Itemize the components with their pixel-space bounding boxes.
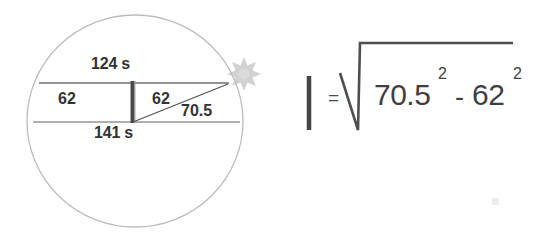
equation-svg bbox=[280, 0, 553, 245]
operand-a: 70.5 bbox=[374, 80, 430, 110]
diagram-page: 124 s 62 62 70.5 141 s = 70.5 2 - 62 2 bbox=[0, 0, 553, 245]
geometry-figure-svg bbox=[0, 0, 280, 245]
bottom-chord-label: 141 s bbox=[94, 125, 133, 141]
top-chord-label: 124 s bbox=[91, 56, 130, 72]
exponent-b: 2 bbox=[513, 66, 522, 82]
geometry-figure-panel: 124 s 62 62 70.5 141 s bbox=[0, 0, 280, 245]
hypotenuse-label: 70.5 bbox=[181, 103, 212, 119]
equals-sign: = bbox=[328, 88, 339, 107]
right-half-label: 62 bbox=[152, 91, 170, 107]
equation-panel: = 70.5 2 - 62 2 bbox=[280, 0, 553, 245]
left-half-label: 62 bbox=[58, 91, 76, 107]
minus-operator: - bbox=[455, 84, 464, 111]
starburst-icon bbox=[227, 57, 261, 91]
operand-b: 62 bbox=[472, 80, 504, 110]
faint-artifact-mark bbox=[492, 198, 499, 205]
exponent-a: 2 bbox=[438, 66, 447, 82]
